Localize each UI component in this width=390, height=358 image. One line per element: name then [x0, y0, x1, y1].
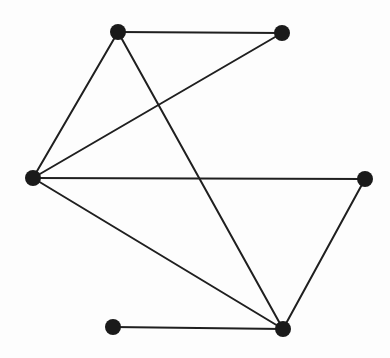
- graph-canvas: [0, 0, 390, 358]
- node-right: [357, 171, 373, 187]
- edge-left-bottom-right: [33, 178, 283, 329]
- edge-top-left-top-right: [118, 32, 282, 33]
- edge-layer: [33, 32, 365, 329]
- edge-top-left-bottom-right: [118, 32, 283, 329]
- node-left: [25, 170, 41, 186]
- edge-left-right: [33, 178, 365, 179]
- node-bottom-left: [105, 319, 121, 335]
- edge-top-right-left: [33, 33, 282, 178]
- graph-diagram: [0, 0, 390, 358]
- edge-bottom-left-bottom-right: [113, 327, 283, 329]
- edge-right-bottom-right: [283, 179, 365, 329]
- edge-top-left-left: [33, 32, 118, 178]
- node-top-left: [110, 24, 126, 40]
- node-bottom-right: [275, 321, 291, 337]
- node-top-right: [274, 25, 290, 41]
- node-layer: [25, 24, 373, 337]
